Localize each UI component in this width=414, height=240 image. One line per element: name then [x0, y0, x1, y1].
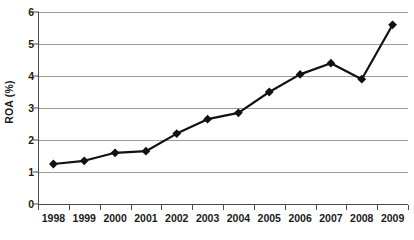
- data-point-marker: [111, 148, 120, 157]
- y-axis-tick: [33, 12, 39, 13]
- x-axis-tick: [408, 205, 409, 210]
- data-point-marker: [49, 160, 58, 169]
- x-tick-label: 1999: [73, 212, 96, 224]
- x-axis-tick: [192, 205, 193, 210]
- x-axis-tick: [285, 205, 286, 210]
- y-axis-tick: [33, 108, 39, 109]
- x-axis-tick: [377, 205, 378, 210]
- y-tick-label: 1: [20, 166, 34, 178]
- x-axis-tick: [69, 205, 70, 210]
- y-axis-tick-labels: 0123456: [16, 0, 34, 240]
- x-axis-tick: [38, 205, 39, 210]
- x-axis-tick: [100, 205, 101, 210]
- x-axis-tick: [254, 205, 255, 210]
- data-point-marker: [327, 59, 336, 68]
- x-tick-label: 2001: [134, 212, 157, 224]
- data-point-marker: [172, 129, 181, 138]
- x-tick-label: 2008: [350, 212, 373, 224]
- x-axis-tick: [223, 205, 224, 210]
- x-tick-label: 2005: [258, 212, 281, 224]
- data-point-marker: [80, 156, 89, 165]
- x-tick-label: 2000: [103, 212, 126, 224]
- data-point-marker: [388, 20, 397, 29]
- x-tick-label: 1998: [42, 212, 65, 224]
- data-point-marker: [357, 75, 366, 84]
- y-axis-tick: [33, 76, 39, 77]
- y-tick-label: 6: [20, 6, 34, 18]
- y-tick-label: 0: [20, 198, 34, 210]
- roa-line-chart: ROA (%) 0123456 199819992000200120022003…: [0, 0, 414, 240]
- x-tick-label: 2004: [227, 212, 250, 224]
- x-tick-label: 2007: [319, 212, 342, 224]
- y-axis-tick: [33, 172, 39, 173]
- y-tick-label: 4: [20, 70, 34, 82]
- data-series: [38, 12, 408, 204]
- y-tick-label: 2: [20, 134, 34, 146]
- x-tick-label: 2006: [288, 212, 311, 224]
- data-point-marker: [296, 70, 305, 79]
- x-tick-label: 2003: [196, 212, 219, 224]
- data-point-marker: [203, 115, 212, 124]
- y-axis-title-text: ROA (%): [3, 80, 15, 124]
- x-axis-tick: [316, 205, 317, 210]
- data-point-marker: [142, 147, 151, 156]
- series-line: [53, 25, 392, 164]
- y-tick-label: 3: [20, 102, 34, 114]
- y-axis-tick: [33, 44, 39, 45]
- y-tick-label: 5: [20, 38, 34, 50]
- x-tick-label: 2002: [165, 212, 188, 224]
- x-axis-tick: [131, 205, 132, 210]
- x-axis-tick: [161, 205, 162, 210]
- x-tick-label: 2009: [381, 212, 404, 224]
- y-axis-tick: [33, 140, 39, 141]
- x-axis-tick: [346, 205, 347, 210]
